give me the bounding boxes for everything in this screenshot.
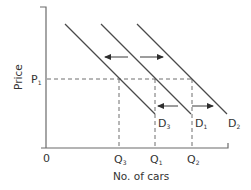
- x-axis-label: No. of cars: [113, 170, 169, 182]
- price-label: P1: [31, 73, 42, 86]
- origin-label: 0: [43, 152, 50, 165]
- x-axis: [41, 143, 228, 148]
- y-axis: [40, 7, 46, 148]
- quantity-label-q1: Q1: [150, 153, 163, 166]
- curve-label-d1: D1: [195, 117, 207, 130]
- quantity-label-q2: Q2: [187, 153, 200, 166]
- demand-shift-diagram: Price P1 0 D3 D1 D2 Q3 Q1 Q2 No. of cars: [0, 0, 251, 190]
- y-axis-label: Price: [12, 64, 24, 90]
- demand-curve-d3: [65, 24, 155, 114]
- demand-curve-d2: [137, 24, 227, 114]
- curve-label-d2: D2: [228, 117, 240, 130]
- curve-label-d3: D3: [158, 117, 170, 130]
- demand-curve-d1: [101, 24, 191, 114]
- quantity-label-q3: Q3: [114, 153, 127, 166]
